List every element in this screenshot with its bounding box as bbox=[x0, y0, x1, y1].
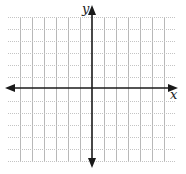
y-axis-label: y bbox=[82, 2, 89, 15]
x-axis-label: x bbox=[170, 88, 177, 101]
coordinate-plane bbox=[0, 0, 186, 174]
y-axis-down-arrow-icon bbox=[88, 158, 96, 168]
x-axis-left-arrow-icon bbox=[5, 84, 15, 92]
